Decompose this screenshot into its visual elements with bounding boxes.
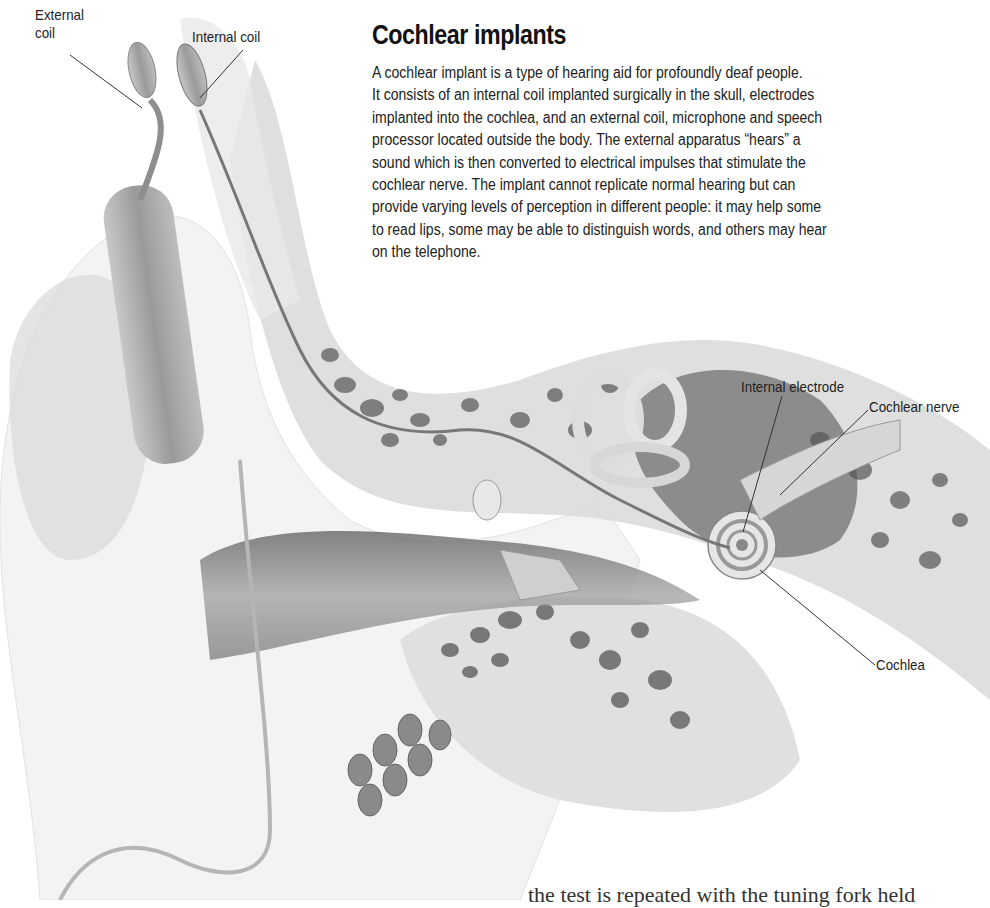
description-line: cochlear nerve. The implant cannot repli… xyxy=(372,174,930,196)
cut-off-body-text: the test is repeated with the tuning for… xyxy=(528,882,915,908)
label-external-coil-line2: coil xyxy=(35,25,55,41)
description-paragraph: A cochlear implant is a type of hearing … xyxy=(372,62,930,264)
description-line: processor located outside the body. The … xyxy=(372,129,930,151)
description-line: to read lips, some may be able to distin… xyxy=(372,219,930,241)
description-line: sound which is then converted to electri… xyxy=(372,152,930,174)
label-external-coil-line1: External xyxy=(35,7,84,23)
label-cochlea: Cochlea xyxy=(876,656,925,674)
description-line: provide varying levels of perception in … xyxy=(372,196,930,218)
description-line: implanted into the cochlea, and an exter… xyxy=(372,107,930,129)
label-internal-coil: Internal coil xyxy=(192,28,260,46)
external-coil-graphic xyxy=(123,40,160,100)
label-external-coil: External coil xyxy=(35,6,84,42)
description-line: It consists of an internal coil implante… xyxy=(372,84,930,106)
page-title: Cochlear implants xyxy=(372,20,566,51)
description-line: on the telephone. xyxy=(372,241,930,263)
label-internal-electrode: Internal electrode xyxy=(741,378,844,396)
label-cochlear-nerve: Cochlear nerve xyxy=(869,398,959,416)
description-line: A cochlear implant is a type of hearing … xyxy=(372,62,930,84)
